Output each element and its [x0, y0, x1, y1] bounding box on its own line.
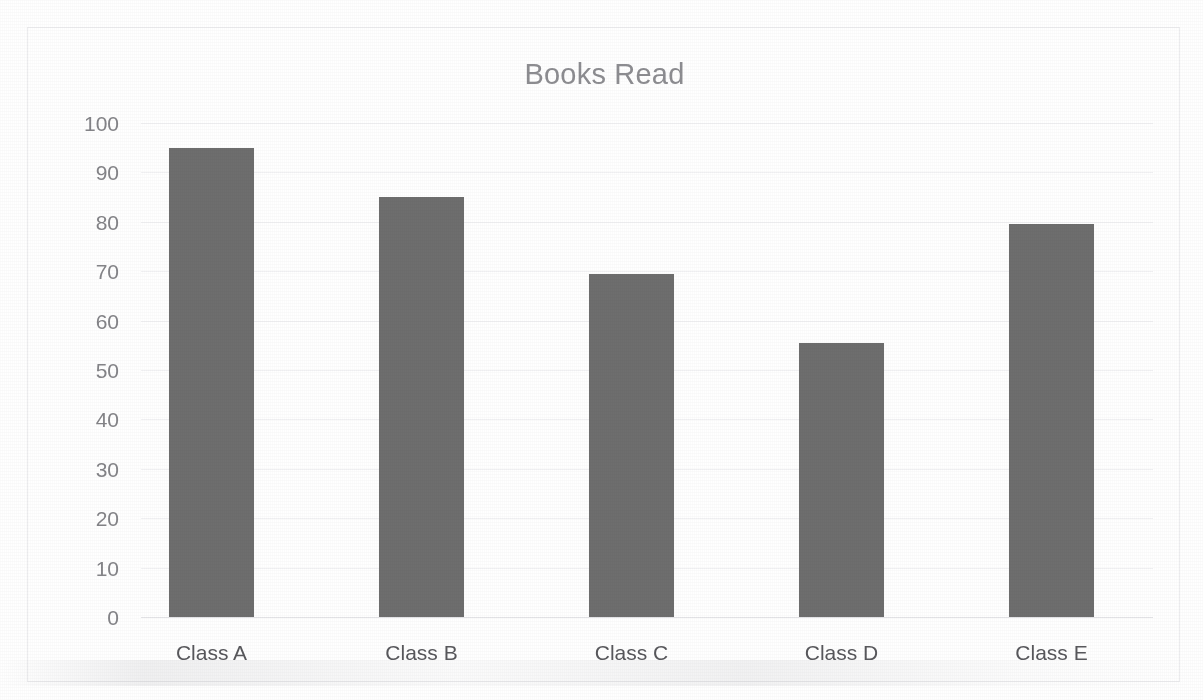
ytick-label-20: 20: [96, 508, 119, 529]
bar-class-c[interactable]: [589, 274, 674, 617]
gridline-90: 90: [141, 172, 1153, 173]
ytick-label-70: 70: [96, 261, 119, 282]
plot-area: 100 90 80 70 60 50 40 30 20 10 0: [141, 123, 1181, 617]
ytick-label-10: 10: [96, 557, 119, 578]
bar-class-d[interactable]: [799, 343, 884, 617]
chart-container: Books Read 100 90 80 70 60 50 40 30 20: [27, 27, 1180, 682]
ytick-label-80: 80: [96, 211, 119, 232]
bar-class-a[interactable]: [169, 148, 254, 617]
chart-title: Books Read: [28, 58, 1181, 91]
top-cut-off-text: [0, 0, 1203, 14]
category-label-class-b: Class B: [385, 642, 457, 663]
ytick-label-30: 30: [96, 458, 119, 479]
category-label-class-d: Class D: [805, 642, 879, 663]
bar-class-e[interactable]: [1009, 224, 1094, 617]
ytick-label-50: 50: [96, 360, 119, 381]
category-label-class-a: Class A: [176, 642, 247, 663]
ytick-label-40: 40: [96, 409, 119, 430]
ytick-label-90: 90: [96, 162, 119, 183]
gridline-80: 80: [141, 222, 1153, 223]
bar-class-b[interactable]: [379, 197, 464, 617]
category-label-class-e: Class E: [1015, 642, 1087, 663]
gridline-70: 70: [141, 271, 1153, 272]
ytick-label-60: 60: [96, 310, 119, 331]
category-label-class-c: Class C: [595, 642, 669, 663]
gridline-100: 100: [141, 123, 1153, 124]
ytick-label-0: 0: [107, 607, 119, 628]
gridline-0-baseline: 0: [141, 617, 1153, 618]
ytick-label-100: 100: [84, 113, 119, 134]
